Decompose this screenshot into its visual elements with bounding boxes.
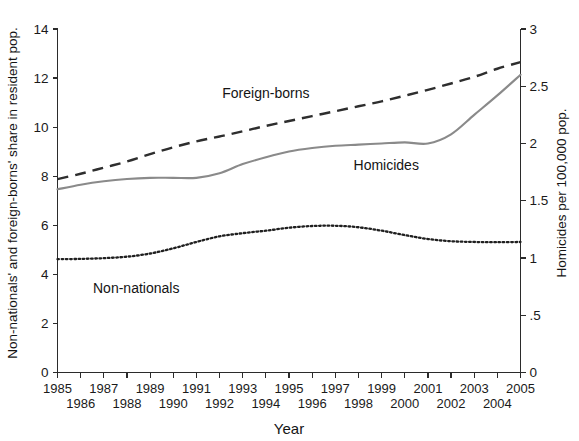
y-right-tick-label: 0 bbox=[530, 365, 538, 380]
x-tick-label-odd: 1999 bbox=[367, 381, 396, 396]
line-chart: Non-nationals' and foreign-borns' share … bbox=[0, 0, 579, 441]
y-right-tick-label: 2 bbox=[530, 136, 538, 151]
y-axis-right-title: Homicides per 100,000 pop. bbox=[554, 109, 569, 278]
y-left-tick-label: 10 bbox=[33, 120, 48, 135]
x-tick-label-odd: 2001 bbox=[413, 381, 442, 396]
y-right-tick-label: 1 bbox=[530, 251, 538, 266]
x-tick-label-odd: 1991 bbox=[182, 381, 211, 396]
x-tick-label-even: 1998 bbox=[344, 396, 373, 411]
x-tick-label-even: 2002 bbox=[437, 396, 466, 411]
y-left-tick-label: 2 bbox=[41, 316, 49, 331]
y-left-tick-label: 14 bbox=[33, 22, 49, 37]
x-tick-label-even: 2000 bbox=[390, 396, 419, 411]
x-tick-label-even: 2004 bbox=[483, 396, 512, 411]
x-tick-label-odd: 1997 bbox=[321, 381, 350, 396]
x-tick-label-odd: 1995 bbox=[275, 381, 304, 396]
x-tick-label-odd: 2005 bbox=[506, 381, 535, 396]
x-axis-ticks bbox=[58, 373, 521, 378]
series-annotation-homicides: Homicides bbox=[354, 157, 419, 173]
y-left-tick-label: 12 bbox=[33, 71, 48, 86]
x-tick-label-odd: 1985 bbox=[43, 381, 72, 396]
series-annotation-non-nationals: Non-nationals bbox=[93, 280, 179, 296]
x-tick-label-even: 1988 bbox=[112, 396, 141, 411]
y-left-tick-label: 0 bbox=[41, 365, 49, 380]
y-axis-left-title: Non-nationals' and foreign-borns' share … bbox=[5, 27, 20, 359]
y-left-tick-label: 6 bbox=[41, 218, 49, 233]
y-right-tick-label: .5 bbox=[530, 308, 541, 323]
y-left-tick-label: 4 bbox=[41, 267, 49, 282]
x-tick-label-odd: 1993 bbox=[228, 381, 257, 396]
x-tick-label-even: 1986 bbox=[66, 396, 95, 411]
x-tick-label-odd: 2003 bbox=[460, 381, 489, 396]
y-left-tick-label: 8 bbox=[41, 169, 49, 184]
x-axis-title: Year bbox=[274, 420, 304, 437]
chart-figure: Non-nationals' and foreign-borns' share … bbox=[0, 0, 579, 441]
x-tick-label-odd: 1987 bbox=[89, 381, 118, 396]
x-tick-label-even: 1994 bbox=[251, 396, 280, 411]
series-annotation-foreign-borns: Foreign-borns bbox=[222, 85, 309, 101]
x-tick-label-odd: 1989 bbox=[136, 381, 165, 396]
y-right-tick-label: 1.5 bbox=[530, 193, 549, 208]
x-tick-label-even: 1992 bbox=[205, 396, 234, 411]
x-tick-label-even: 1990 bbox=[159, 396, 188, 411]
x-tick-label-even: 1996 bbox=[298, 396, 327, 411]
y-right-tick-label: 3 bbox=[530, 22, 538, 37]
y-right-tick-label: 2.5 bbox=[530, 79, 549, 94]
